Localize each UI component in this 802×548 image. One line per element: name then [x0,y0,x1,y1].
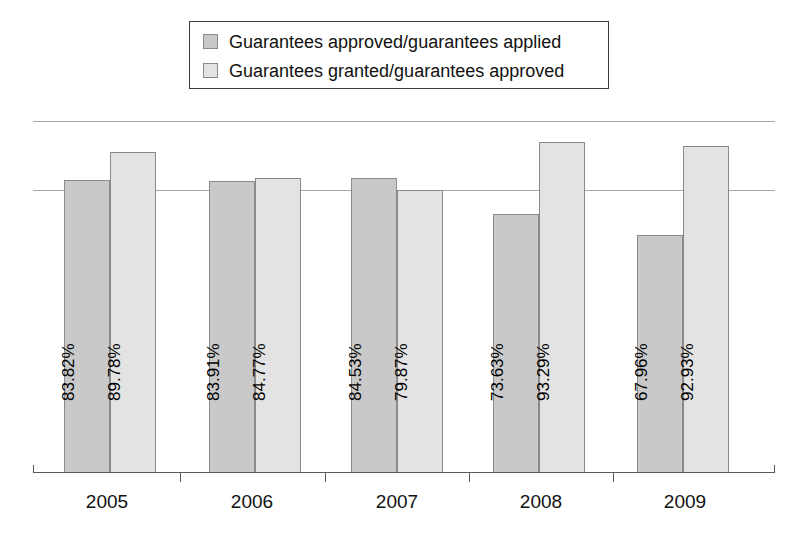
bar-2007-granted-approved [397,190,443,473]
x-axis-line [33,472,775,473]
bar-2006-approved-applied [209,181,255,473]
x-axis-label-2005: 2005 [47,491,167,513]
bar-value-2009-granted-approved: 92.93% [678,343,698,401]
x-axis-left-cap [33,465,34,473]
bar-value-2009-approved-applied: 67.96% [632,343,652,401]
bar-2008-granted-approved [539,142,585,473]
bar-value-2007-approved-applied: 84.53% [346,343,366,401]
bar-2005-approved-applied [64,180,110,473]
x-axis-tick-1 [180,473,181,482]
chart-container: Guarantees approved/guarantees applied G… [0,0,802,548]
x-axis-tick-2 [325,473,326,482]
bar-value-2005-granted-approved: 89.78% [105,343,125,401]
bar-2006-granted-approved [255,178,301,473]
bar-2005-granted-approved [110,152,156,473]
x-axis-label-2007: 2007 [337,491,457,513]
gridline-upper [33,121,775,122]
x-axis-label-2008: 2008 [481,491,601,513]
x-axis-label-2009: 2009 [625,491,745,513]
x-axis-tick-3 [469,473,470,482]
bar-value-2008-granted-approved: 93.29% [534,343,554,401]
x-axis-label-2006: 2006 [192,491,312,513]
bar-value-2007-granted-approved: 79.87% [392,343,412,401]
bar-2009-granted-approved [683,146,729,473]
x-axis-right-cap [774,465,775,473]
bar-value-2005-approved-applied: 83.82% [59,343,79,401]
bar-value-2006-approved-applied: 83.91% [204,343,224,401]
bar-value-2008-approved-applied: 73.63% [488,343,508,401]
plot-area: 83.82% 89.78% 83.91% 84.77% 84.53% 79.87… [0,0,802,548]
x-axis-tick-4 [613,473,614,482]
bar-value-2006-granted-approved: 84.77% [250,343,270,401]
bar-2007-approved-applied [351,178,397,473]
